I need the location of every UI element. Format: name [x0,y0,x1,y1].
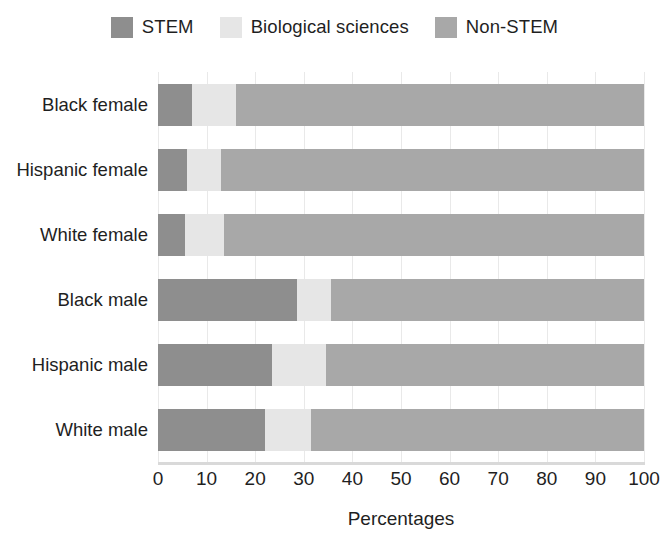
gridline [498,72,499,462]
bar-segment[interactable] [158,344,272,386]
bar-segment[interactable] [158,214,185,256]
legend-label-stem: STEM [142,16,194,38]
bar-row[interactable] [158,84,644,126]
x-axis-tick-label: 100 [628,468,660,490]
bar-segment[interactable] [158,149,187,191]
x-axis-tick-label: 40 [342,468,363,490]
legend-item-non-stem: Non-STEM [435,16,558,38]
bar-segment[interactable] [187,149,221,191]
x-axis-tick-label: 10 [196,468,217,490]
legend-label-non-stem: Non-STEM [466,16,558,38]
gridline [352,72,353,462]
legend-label-biological-sciences: Biological sciences [251,16,409,38]
x-axis-tick-label: 20 [245,468,266,490]
x-axis-tick-label: 50 [390,468,411,490]
x-axis-tick-label: 80 [536,468,557,490]
y-axis-label: Black female [0,94,148,116]
bar-row[interactable] [158,279,644,321]
gridline [158,72,159,462]
bar-segment[interactable] [192,84,236,126]
y-axis-label: Hispanic male [0,354,148,376]
chart-legend: STEM Biological sciences Non-STEM [0,16,669,38]
x-axis-tick-label: 30 [293,468,314,490]
bar-segment[interactable] [236,84,644,126]
gridline [401,72,402,462]
y-axis-labels: Black femaleHispanic femaleWhite femaleB… [0,72,148,462]
bar-segment[interactable] [297,279,331,321]
plot-area [158,72,644,462]
x-axis-tick-label: 70 [488,468,509,490]
gridline [255,72,256,462]
y-axis-label: Hispanic female [0,159,148,181]
bar-segment[interactable] [224,214,644,256]
gridline [595,72,596,462]
bar-segment[interactable] [326,344,644,386]
stacked-bar-chart: STEM Biological sciences Non-STEM Black … [0,0,669,560]
y-axis-label: White female [0,224,148,246]
legend-item-stem: STEM [111,16,194,38]
gridline [547,72,548,462]
bar-segment[interactable] [158,84,192,126]
x-axis-tick-labels: 0102030405060708090100 [0,468,669,500]
gridline [207,72,208,462]
x-axis-tick-label: 60 [439,468,460,490]
legend-swatch-non-stem [435,17,457,38]
bar-segment[interactable] [311,409,644,451]
y-axis-label: Black male [0,289,148,311]
bar-segment[interactable] [158,409,265,451]
bar-segment[interactable] [221,149,644,191]
bar-segment[interactable] [158,279,297,321]
gridline [450,72,451,462]
bar-row[interactable] [158,149,644,191]
bar-row[interactable] [158,409,644,451]
x-axis-tick-label: 0 [153,468,164,490]
bar-segment[interactable] [265,409,311,451]
x-axis-tick-label: 90 [585,468,606,490]
x-axis-line [158,462,645,465]
bar-segment[interactable] [331,279,644,321]
bar-segment[interactable] [272,344,325,386]
legend-item-biological-sciences: Biological sciences [220,16,409,38]
legend-swatch-stem [111,17,133,38]
bar-row[interactable] [158,344,644,386]
gridline [304,72,305,462]
legend-swatch-biological-sciences [220,17,242,38]
y-axis-label: White male [0,419,148,441]
bar-row[interactable] [158,214,644,256]
x-axis-title: Percentages [158,508,644,530]
gridline [644,72,645,462]
bar-segment[interactable] [185,214,224,256]
